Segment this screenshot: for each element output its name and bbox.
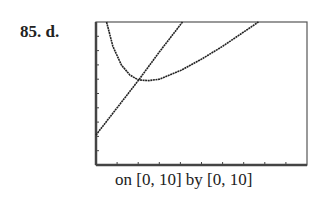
line-series	[96, 22, 183, 135]
window-caption: on [0, 10] by [0, 10]	[115, 170, 252, 190]
axis-ticks	[96, 36, 286, 165]
curve-series	[107, 22, 259, 81]
